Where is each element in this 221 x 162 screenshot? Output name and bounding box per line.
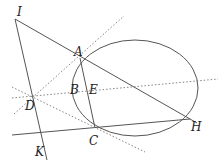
point-label-D: D	[24, 99, 35, 113]
point-label-C: C	[89, 134, 98, 148]
point-label-K: K	[34, 145, 45, 159]
line-IK	[15, 19, 47, 160]
point-label-I: I	[16, 5, 22, 19]
geometry-diagram: I A B E D C H K	[0, 0, 221, 162]
point-label-E: E	[88, 83, 98, 97]
point-label-B: B	[69, 83, 79, 97]
point-label-A: A	[73, 45, 83, 59]
line-IH	[15, 19, 197, 123]
point-label-H: H	[190, 120, 202, 134]
